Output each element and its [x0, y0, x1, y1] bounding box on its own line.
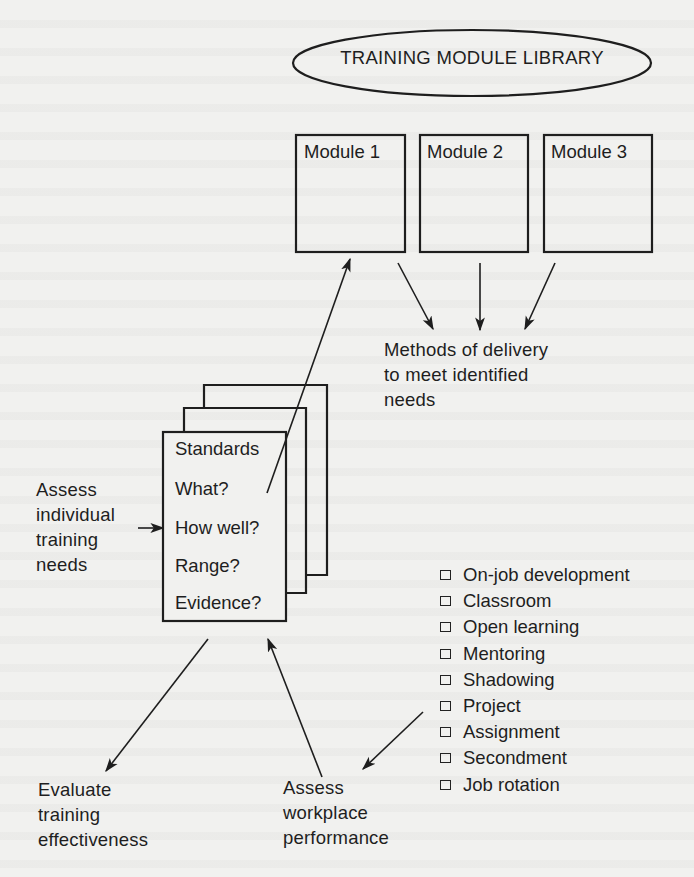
- checkbox-icon[interactable]: [440, 727, 451, 737]
- delivery-methods-list: On-job development Classroom Open learni…: [440, 562, 630, 798]
- evaluate-line-3: effectiveness: [38, 827, 148, 852]
- checkbox-icon[interactable]: [440, 753, 451, 763]
- assess-individual-line-2: individual: [36, 502, 115, 527]
- card-range: Range?: [175, 555, 240, 577]
- module-2-label: Module 2: [427, 141, 503, 163]
- arrow-module3-to-delivery: [525, 263, 555, 329]
- method-item[interactable]: Classroom: [440, 588, 630, 614]
- library-title: TRAINING MODULE LIBRARY: [293, 47, 651, 69]
- assess-individual-line-4: needs: [36, 552, 115, 577]
- card-how-well: How well?: [175, 517, 259, 539]
- delivery-line-2: to meet identified: [384, 362, 548, 387]
- assess-individual-label: Assess individual training needs: [36, 477, 115, 577]
- arrow-workplace-to-card: [268, 639, 322, 777]
- assess-individual-line-3: training: [36, 527, 115, 552]
- assess-workplace-label: Assess workplace performance: [283, 775, 389, 850]
- assess-workplace-line-1: Assess: [283, 775, 389, 800]
- module-3-label: Module 3: [551, 141, 627, 163]
- checkbox-icon[interactable]: [440, 675, 451, 685]
- method-item[interactable]: Secondment: [440, 745, 630, 771]
- method-item[interactable]: Open learning: [440, 614, 630, 640]
- card-standards: Standards: [175, 438, 259, 460]
- assess-individual-line-1: Assess: [36, 477, 115, 502]
- delivery-line-3: needs: [384, 387, 548, 412]
- evaluate-label: Evaluate training effectiveness: [38, 777, 148, 852]
- checkbox-icon[interactable]: [440, 622, 451, 632]
- delivery-label: Methods of delivery to meet identified n…: [384, 337, 548, 412]
- checkbox-icon[interactable]: [440, 596, 451, 606]
- arrow-card-to-evaluate: [106, 639, 208, 771]
- assess-workplace-line-2: workplace: [283, 800, 389, 825]
- evaluate-line-2: training: [38, 802, 148, 827]
- arrow-module1-to-delivery: [398, 263, 433, 329]
- method-item[interactable]: Project: [440, 693, 630, 719]
- checkbox-icon[interactable]: [440, 780, 451, 790]
- method-item[interactable]: On-job development: [440, 562, 630, 588]
- method-item[interactable]: Shadowing: [440, 667, 630, 693]
- method-item[interactable]: Job rotation: [440, 772, 630, 798]
- checkbox-icon[interactable]: [440, 570, 451, 580]
- method-item[interactable]: Assignment: [440, 719, 630, 745]
- checkbox-icon[interactable]: [440, 649, 451, 659]
- assess-workplace-line-3: performance: [283, 825, 389, 850]
- card-evidence: Evidence?: [175, 592, 261, 614]
- checkbox-icon[interactable]: [440, 701, 451, 711]
- module-1-label: Module 1: [304, 141, 380, 163]
- arrow-methods-to-workplace: [363, 712, 423, 769]
- delivery-line-1: Methods of delivery: [384, 337, 548, 362]
- evaluate-line-1: Evaluate: [38, 777, 148, 802]
- method-item[interactable]: Mentoring: [440, 641, 630, 667]
- card-what: What?: [175, 478, 228, 500]
- arrow-standards-to-module1: [267, 259, 350, 493]
